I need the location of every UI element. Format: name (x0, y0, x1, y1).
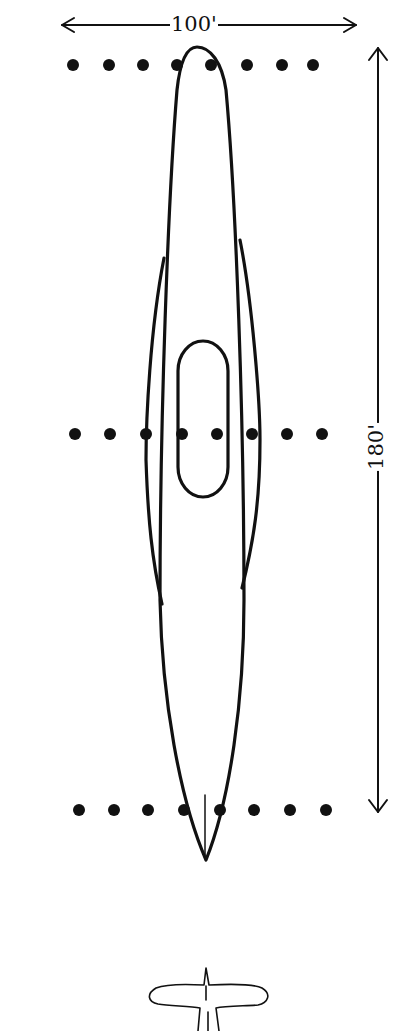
light-dot-middle (246, 428, 258, 440)
light-dot-bottom (320, 804, 332, 816)
light-dot-bottom (248, 804, 260, 816)
length-dimension-label: 180' (365, 423, 387, 471)
diagram-canvas (0, 0, 404, 1031)
light-dot-middle (69, 428, 81, 440)
light-rows (67, 59, 332, 816)
strip-outline (146, 47, 260, 860)
light-dot-bottom (142, 804, 154, 816)
width-dimension-label: 100' (170, 13, 218, 35)
light-dot-top (307, 59, 319, 71)
light-dot-middle (104, 428, 116, 440)
light-dot-middle (281, 428, 293, 440)
light-dot-top (67, 59, 79, 71)
light-dot-top (241, 59, 253, 71)
light-dot-bottom (284, 804, 296, 816)
light-dot-top (276, 59, 288, 71)
airplane-icon (149, 968, 267, 1031)
light-dot-bottom (108, 804, 120, 816)
light-dot-top (137, 59, 149, 71)
light-dot-middle (211, 428, 223, 440)
light-dot-bottom (73, 804, 85, 816)
light-dot-top (103, 59, 115, 71)
light-dot-middle (316, 428, 328, 440)
